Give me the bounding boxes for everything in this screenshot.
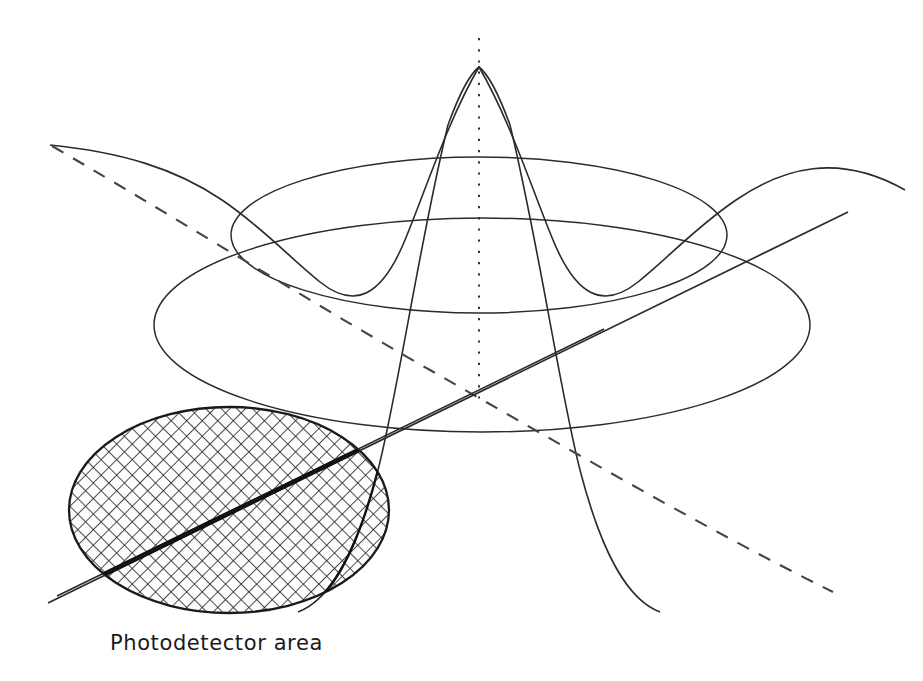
gaussian-beam-photodetector-figure: Photodetector area [0,0,923,681]
photodetector-area-label: Photodetector area [110,631,323,655]
photodetector-area-group [69,407,389,613]
figure-canvas [0,0,923,681]
photodetector-area-ellipse [69,407,389,613]
